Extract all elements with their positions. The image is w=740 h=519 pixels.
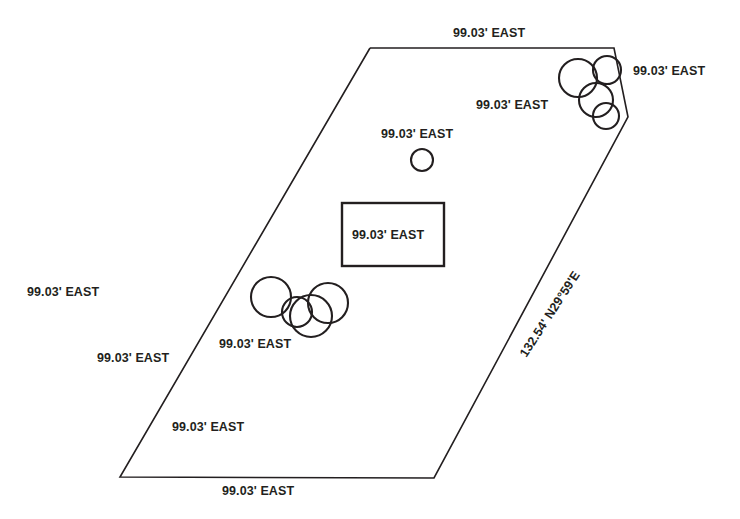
dimension-label-lower-center-cluster: 99.03' EAST: [219, 337, 291, 351]
dimension-label-bottom-boundary: 99.03' EAST: [222, 484, 294, 498]
dimension-label-upper-right-outside: 99.03' EAST: [633, 64, 705, 78]
dimension-label-center-circle: 99.03' EAST: [381, 127, 453, 141]
plat-canvas: [0, 0, 740, 519]
upper-right-tanks-circle: [593, 56, 621, 84]
dimension-label-upper-right-inside: 99.03' EAST: [476, 98, 548, 112]
dimension-label-top-boundary: 99.03' EAST: [453, 26, 525, 40]
parcel-boundary: [120, 48, 628, 478]
center-marker-circle: [411, 149, 433, 171]
dimension-label-building: 99.03' EAST: [352, 228, 424, 242]
dimension-label-lower-left-lower: 99.03' EAST: [172, 420, 244, 434]
dimension-label-left-outside: 99.03' EAST: [27, 285, 99, 299]
survey-plat-drawing: 99.03' EAST99.03' EAST99.03' EAST99.03' …: [0, 0, 740, 519]
dimension-label-lower-left-upper: 99.03' EAST: [97, 351, 169, 365]
upper-right-tanks-circle: [579, 83, 613, 117]
lower-left-tanks-circle: [251, 277, 291, 317]
upper-right-tanks-circle: [559, 59, 597, 97]
